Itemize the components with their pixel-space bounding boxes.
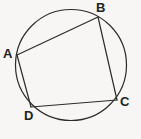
edge-cd — [31, 100, 117, 107]
geometry-canvas — [0, 0, 141, 139]
edge-ab — [17, 17, 98, 55]
vertex-label-d: D — [24, 109, 33, 122]
geometry-diagram: A B C D — [0, 0, 141, 139]
vertex-label-a: A — [3, 47, 12, 60]
vertex-label-b: B — [96, 1, 105, 14]
edge-da — [17, 55, 31, 107]
vertex-label-c: C — [120, 95, 129, 108]
